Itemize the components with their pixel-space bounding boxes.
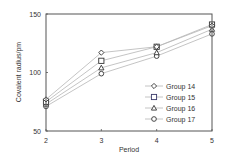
x-tick-label: 4 [155,137,159,144]
x-tick-label: 5 [210,137,214,144]
x-axis-title: Period [119,146,139,153]
triangle-marker [154,50,159,55]
legend-item: Group 17 [145,116,195,124]
circle-marker [99,71,104,76]
square-marker [99,58,104,63]
chart: 50100150 2345 Period Covalent radius/pm … [0,0,231,162]
legend-label: Group 14 [166,83,195,91]
y-axis-title: Covalent radius/pm [15,42,23,102]
legend-item: Group 14 [145,83,195,91]
legend-item: Group 16 [145,105,195,113]
square-legend-icon [151,94,156,99]
y-tick-label: 50 [33,128,41,135]
legend-label: Group 16 [166,105,195,113]
x-tick-label: 3 [99,137,103,144]
legend-label: Group 17 [166,116,195,124]
x-tick-label: 2 [44,137,48,144]
diamond-legend-icon [151,83,156,88]
series-line-group-15 [46,25,212,102]
y-tick-label: 100 [29,69,41,76]
legend-label: Group 15 [166,94,195,102]
circle-legend-icon [152,117,157,122]
y-axis-ticks: 50100150 [29,11,48,135]
plot-frame [46,14,212,131]
legend-item: Group 15 [145,94,195,102]
legend: Group 14Group 15Group 16Group 17 [145,83,195,124]
y-tick-label: 150 [29,11,41,18]
